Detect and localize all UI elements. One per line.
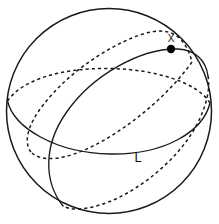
sphere-diagram-svg: X L	[0, 0, 219, 224]
point-x-label: X	[168, 33, 175, 44]
equator-front-arc	[8, 101, 211, 154]
sphere-outline-circle	[7, 9, 212, 214]
tilted-great-circle-back	[63, 76, 209, 209]
equator-back-arc	[8, 68, 211, 103]
sphere-diagram: X L	[0, 0, 219, 224]
line-l-label: L	[134, 150, 141, 165]
point-x-dot	[167, 45, 175, 53]
